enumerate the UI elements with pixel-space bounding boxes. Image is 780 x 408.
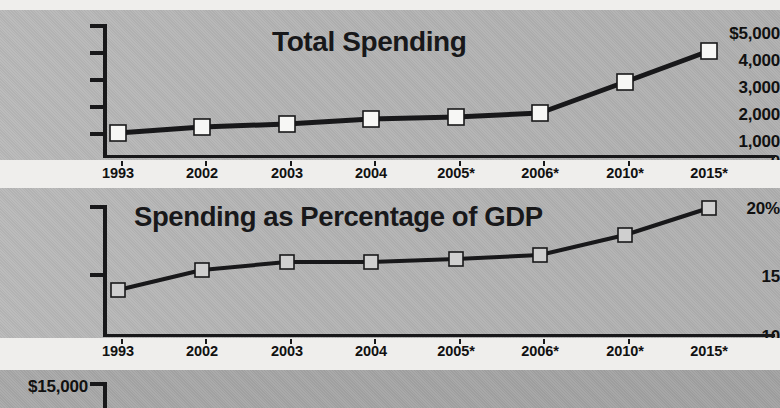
- data-point-marker: [618, 228, 632, 242]
- data-point-marker: [448, 109, 464, 125]
- x-tick-label-2003: 2003: [247, 166, 327, 181]
- chart-panel-spending-pct-gdp: 20% 15 10 Spending as Percentage of GDP: [0, 188, 780, 338]
- x-tick-label-2006: 2006*: [500, 166, 580, 181]
- data-point-marker: [279, 116, 295, 132]
- figure-canvas: $5,000 4,000 3,000 2,000 1,000 0 Total S…: [0, 0, 780, 408]
- data-point-marker: [194, 119, 210, 135]
- y-tick-label-3-top: $15,000: [4, 378, 88, 395]
- x-tick-label-2010: 2010*: [585, 166, 665, 181]
- data-point-marker: [110, 125, 126, 141]
- x-tick-label-2015: 2015*: [669, 344, 749, 359]
- plot-background-3: [0, 370, 780, 408]
- data-point-marker: [449, 252, 463, 266]
- x-tick-label-2006: 2006*: [500, 344, 580, 359]
- data-point-marker: [111, 283, 125, 297]
- x-axis-labels-2: 1993 2002 2003 2004 2005* 2006* 2010* 20…: [0, 338, 780, 366]
- top-light-strip: [0, 0, 780, 10]
- x-tick-label-2004: 2004: [331, 166, 411, 181]
- data-point-marker: [364, 255, 378, 269]
- y-axis-line-3: [103, 382, 107, 408]
- data-point-marker: [532, 105, 548, 121]
- x-tick-label-2010: 2010*: [585, 344, 665, 359]
- x-tick-label-2004: 2004: [331, 344, 411, 359]
- data-point-marker: [701, 43, 717, 59]
- x-tick-label-2015: 2015*: [669, 166, 749, 181]
- x-tick-label-2002: 2002: [162, 166, 242, 181]
- data-point-marker: [195, 263, 209, 277]
- chart-panel-total-spending: $5,000 4,000 3,000 2,000 1,000 0 Total S…: [0, 10, 780, 160]
- x-tick-label-1993: 1993: [78, 344, 158, 359]
- chart-panel-third-cropped: $15,000: [0, 370, 780, 408]
- series-total-spending: [0, 10, 780, 160]
- data-point-marker: [533, 248, 547, 262]
- x-tick-label-1993: 1993: [78, 166, 158, 181]
- data-point-marker: [617, 74, 633, 90]
- x-tick-label-2005: 2005*: [416, 344, 496, 359]
- series-spending-pct-gdp: [0, 188, 780, 338]
- x-tick-label-2002: 2002: [162, 344, 242, 359]
- x-tick-label-2005: 2005*: [416, 166, 496, 181]
- data-point-marker: [363, 111, 379, 127]
- data-point-marker: [280, 255, 294, 269]
- x-tick-label-2003: 2003: [247, 344, 327, 359]
- data-point-marker: [702, 201, 716, 215]
- x-axis-labels-1: 1993 2002 2003 2004 2005* 2006* 2010* 20…: [0, 160, 780, 188]
